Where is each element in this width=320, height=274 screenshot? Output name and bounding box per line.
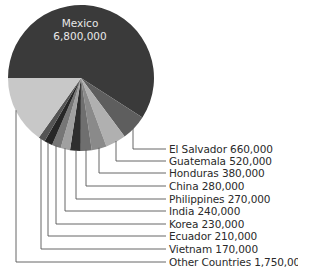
label-vietnam: Vietnam 170,000 [169, 243, 258, 255]
leader-line [41, 138, 166, 249]
leader-line [133, 128, 166, 149]
label-honduras: Honduras 380,000 [169, 167, 265, 179]
leader-line [86, 150, 166, 186]
leader-line [56, 146, 166, 224]
leader-line [65, 148, 166, 211]
label-china: China 280,000 [169, 180, 244, 192]
label-philippines: Philippines 270,000 [169, 193, 270, 205]
label-guatemala: Guatemala 520,000 [169, 155, 272, 167]
leader-line [116, 141, 166, 161]
mexico-slice-label: Mexico 6,800,000 [40, 17, 120, 43]
label-ecuador: Ecuador 210,000 [169, 230, 257, 242]
label-india: India 240,000 [169, 205, 240, 217]
leader-line [99, 148, 166, 173]
leader-line [76, 150, 166, 199]
label-el-salvador: El Salvador 660,000 [169, 143, 273, 155]
label-korea: Korea 230,000 [169, 218, 244, 230]
label-other-countries: Other Countries 1,750,000 [169, 256, 298, 268]
leader-line [48, 142, 166, 236]
mexico-value: 6,800,000 [40, 30, 120, 43]
mexico-name: Mexico [40, 17, 120, 30]
